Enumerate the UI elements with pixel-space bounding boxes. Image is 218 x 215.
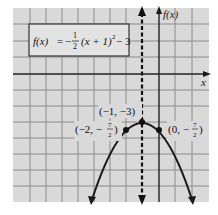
function-minus: − [65,35,71,47]
left-point-frac-den: 2 [108,131,112,139]
vertex-label: (−1, −3) [99,105,136,118]
left-point-frac-num: 7 [108,121,112,129]
function-lhs: f(x) [33,35,49,48]
point-right [156,127,162,133]
right-point-label-post: ) [199,123,203,136]
function-tail: − 3 [116,35,131,47]
function-eq: = [57,35,63,47]
left-point-label-post: ) [114,123,118,136]
point-left [123,127,129,133]
vertex-point [139,119,145,125]
right-point-frac-num: 7 [193,121,197,129]
graph-figure: f(x) = − 1 2 (x + 1) 2 − 3 x f(x) (−1, −… [0,0,218,215]
right-point-label-pre: (0, − [168,123,189,136]
y-axis-label: f(x) [163,8,179,21]
right-point-frac-den: 2 [193,131,197,139]
function-frac-den: 2 [73,42,77,51]
function-body: (x + 1) [81,35,112,48]
function-label-box: f(x) = − 1 2 (x + 1) 2 − 3 [29,24,131,56]
x-axis-label: x [200,76,206,88]
left-point-label-pre: (−2, − [75,123,102,136]
function-frac-num: 1 [73,31,77,40]
